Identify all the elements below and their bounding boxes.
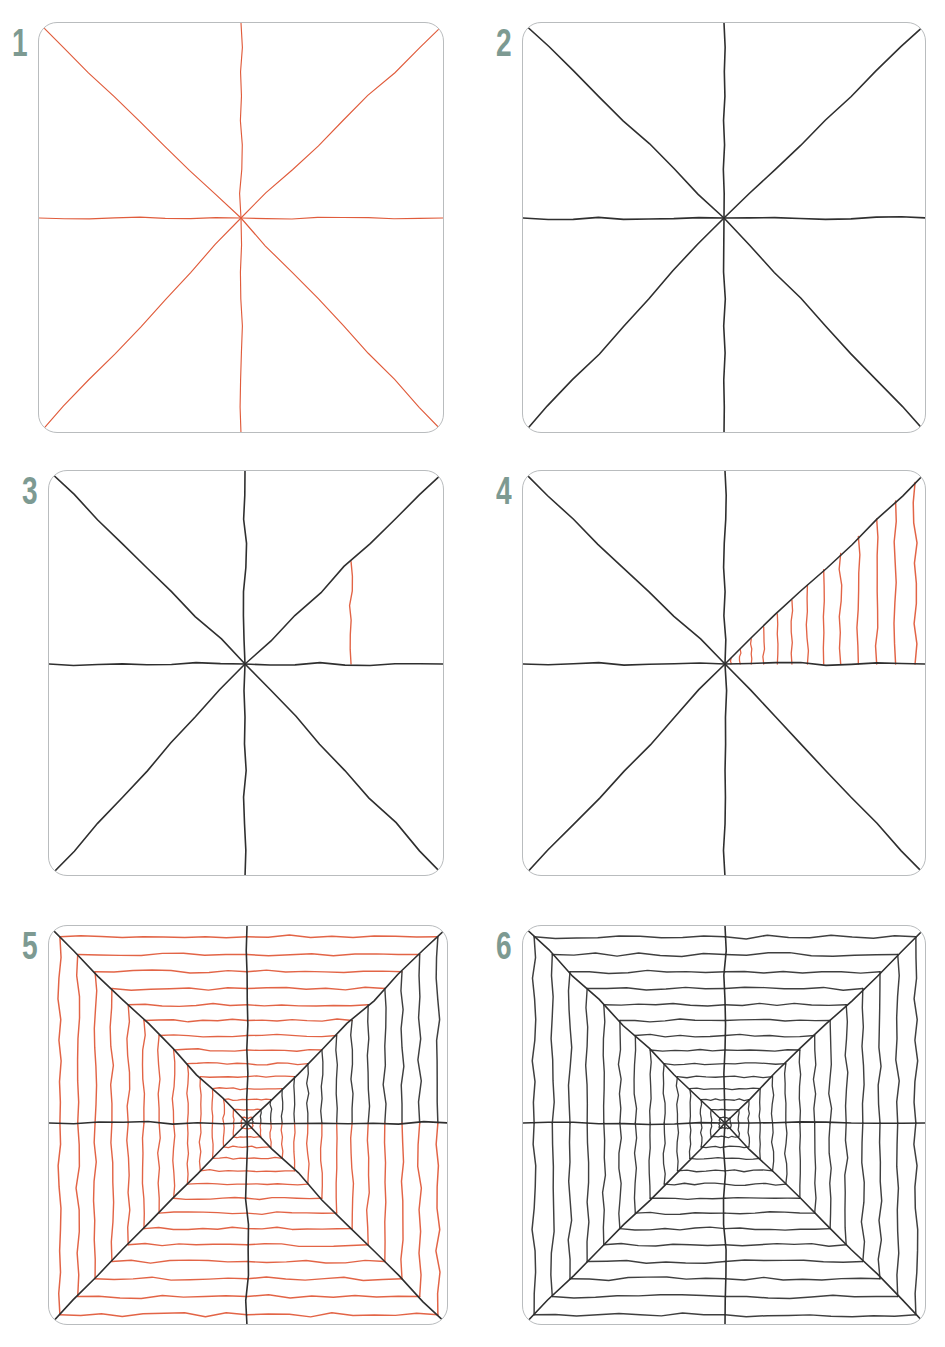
- ray-line: [241, 23, 444, 218]
- chevron-line: [878, 972, 881, 1123]
- ray-group: [523, 23, 926, 433]
- chevron-line: [401, 972, 404, 1123]
- ray-line: [49, 663, 245, 666]
- chevron-line: [799, 1050, 800, 1123]
- chevron-line: [401, 1123, 404, 1279]
- chevron-group-wedge-6: [532, 937, 720, 1123]
- chevron-group-wedge-6: [58, 937, 243, 1123]
- chevron-line: [200, 1077, 247, 1078]
- ray-line: [725, 663, 926, 666]
- ray-group: [523, 926, 926, 1325]
- chevron-line: [603, 1005, 605, 1123]
- chevron-line: [725, 953, 898, 957]
- chevron-line: [791, 600, 792, 664]
- chevron-line: [650, 1050, 652, 1123]
- chevron-group-wedge-1: [350, 562, 353, 664]
- chevron-line: [233, 1123, 234, 1137]
- chevron-line: [845, 1123, 848, 1245]
- chevron-line: [307, 1123, 309, 1184]
- chevron-line: [78, 1295, 247, 1298]
- chevron-line: [351, 1020, 353, 1123]
- chevron-line: [857, 537, 860, 664]
- chevron-line: [294, 1077, 295, 1123]
- chevron-group-wedge-1: [730, 482, 917, 664]
- chevron-line: [568, 1123, 571, 1279]
- chevron-line: [350, 562, 353, 664]
- chevron-line: [260, 1123, 261, 1137]
- chevron-line: [676, 1077, 678, 1123]
- ray-line: [725, 664, 926, 876]
- chevron-line: [159, 1212, 247, 1214]
- ray-line: [241, 218, 444, 433]
- chevron-line: [199, 1123, 201, 1171]
- chevron-line: [711, 1110, 712, 1123]
- artwork-step-4: [523, 471, 926, 876]
- chevron-line: [552, 1295, 725, 1298]
- chevron-line: [619, 1123, 621, 1229]
- chevron-line: [552, 953, 725, 957]
- chevron-line: [200, 1077, 201, 1123]
- chevron-line: [58, 1123, 61, 1315]
- chevron-line: [586, 989, 588, 1123]
- chevron-line: [78, 953, 247, 955]
- chevron-line: [664, 1063, 725, 1065]
- ray-line: [245, 663, 444, 666]
- chevron-line: [725, 1295, 898, 1298]
- chevron-line: [143, 1020, 146, 1123]
- chevron-line: [785, 1123, 787, 1184]
- chevron-line: [635, 1034, 725, 1037]
- chevron-line: [862, 989, 864, 1123]
- chevron-line: [725, 1146, 749, 1147]
- ray-line: [247, 1122, 448, 1125]
- chevron-line: [385, 1123, 386, 1262]
- chevron-line: [60, 1313, 247, 1317]
- ray-line: [246, 926, 248, 1123]
- chevron-line: [618, 1020, 621, 1123]
- chevron-line: [785, 1064, 786, 1123]
- chevron-line: [212, 1123, 213, 1158]
- chevron-line: [839, 553, 842, 664]
- chevron-line: [664, 1183, 725, 1185]
- chevron-line: [247, 1184, 308, 1185]
- chevron-line: [570, 1277, 725, 1281]
- chevron-line: [213, 1088, 247, 1090]
- chevron-line: [876, 519, 878, 664]
- chevron-line: [112, 988, 247, 991]
- chevron-group-wedge-4: [534, 1128, 725, 1316]
- chevron-line: [247, 1063, 308, 1065]
- chevron-line: [281, 1089, 282, 1123]
- chevron-line: [878, 1123, 881, 1279]
- chevron-line: [94, 1123, 97, 1279]
- chevron-line: [174, 1197, 247, 1199]
- chevron-line: [777, 614, 778, 664]
- chevron-line: [813, 1036, 815, 1123]
- chevron-line: [127, 1005, 130, 1123]
- chevron-line: [568, 972, 571, 1123]
- chevron-line: [224, 1099, 247, 1101]
- ray-group: [49, 471, 444, 876]
- chevron-line: [58, 937, 61, 1123]
- chevron-line: [730, 1123, 731, 1128]
- chevron-line: [914, 1123, 918, 1315]
- chevron-group-wedge-7: [534, 936, 725, 1118]
- chevron-line: [763, 627, 765, 664]
- chevron-line: [247, 1034, 337, 1036]
- chevron-line: [281, 1123, 283, 1158]
- chevron-line: [650, 1049, 725, 1051]
- chevron-line: [247, 1227, 352, 1229]
- chevron-line: [294, 1123, 295, 1171]
- chevron-line: [620, 1019, 725, 1022]
- chevron-line: [436, 937, 439, 1123]
- chevron-line: [725, 1183, 786, 1185]
- chevron-line: [650, 1198, 725, 1199]
- chevron-line: [570, 970, 725, 973]
- chevron-line: [436, 1123, 440, 1315]
- chevron-group-wedge-5: [58, 1123, 242, 1315]
- chevron-line: [534, 1313, 725, 1316]
- drawing-canvas-step-6: [522, 925, 926, 1325]
- chevron-line: [224, 1146, 247, 1148]
- ray-line: [724, 218, 726, 433]
- chevron-line: [321, 1050, 323, 1123]
- chevron-line: [748, 1100, 749, 1123]
- chevron-line: [829, 1020, 832, 1123]
